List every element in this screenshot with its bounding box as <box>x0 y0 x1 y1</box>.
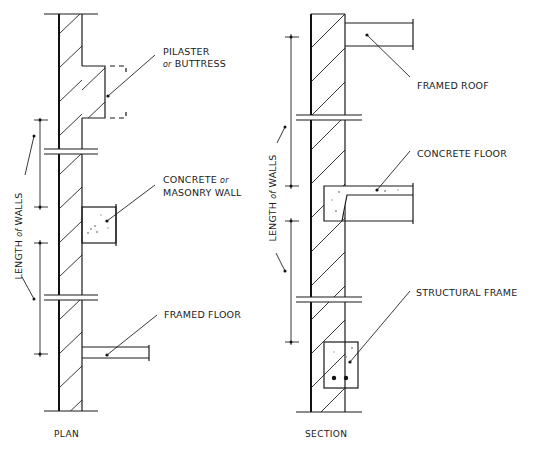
structural-frame-callout: STRUCTURAL FRAME <box>416 287 517 298</box>
concrete-wall-callout-line2: MASONRY WALL <box>163 187 242 198</box>
pilaster-callout-line1: PILASTER <box>163 46 210 57</box>
framed-roof <box>345 19 413 50</box>
framed-roof-callout: FRAMED ROOF <box>417 80 489 91</box>
plan-break-line-upper <box>44 149 98 154</box>
rebar-dot <box>344 376 348 380</box>
section-title: SECTION <box>305 429 347 439</box>
framed-floor <box>82 345 149 361</box>
plan-break-line-lower <box>44 295 98 300</box>
plan-view: LENGTH of WALLS PILASTER or BUTTRESS CON… <box>13 12 242 439</box>
concrete-floor-callout: CONCRETE FLOOR <box>417 148 507 159</box>
rebar-dot <box>332 376 336 380</box>
pilaster-callout-line2: or BUTTRESS <box>163 58 226 69</box>
concrete-floor <box>324 183 413 224</box>
section-break-line-upper <box>296 115 362 120</box>
section-view: LENGTH of WALLS FRAMED ROOF CONCRETE FLO… <box>267 14 517 439</box>
framed-floor-callout: FRAMED FLOOR <box>164 309 241 320</box>
plan-wall-hatch <box>59 12 82 422</box>
structural-frame <box>324 342 358 388</box>
section-length-of-walls-label: LENGTH of WALLS <box>267 154 278 241</box>
plan-leader-lines <box>22 55 157 355</box>
wall-length-diagram: LENGTH of WALLS PILASTER or BUTTRESS CON… <box>0 0 533 454</box>
concrete-wall-callout-line1: CONCRETE or <box>163 174 229 185</box>
plan-length-of-walls-label: LENGTH of WALLS <box>13 192 24 279</box>
pilaster <box>82 66 126 124</box>
concrete-masonry-wall <box>82 204 116 246</box>
plan-title: PLAN <box>54 429 79 439</box>
section-break-line-lower <box>296 297 362 302</box>
pilaster-dashed-outline <box>110 66 126 72</box>
